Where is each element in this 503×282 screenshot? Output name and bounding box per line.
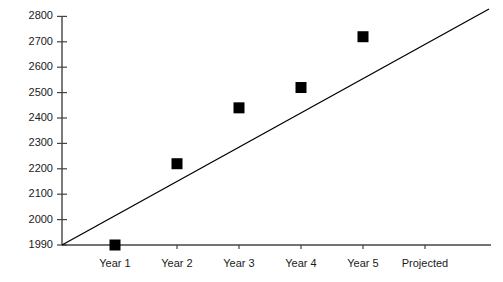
y-axis-tick-label: 2800 xyxy=(8,10,53,21)
y-axis-tick-label: 2400 xyxy=(8,112,53,123)
data-point-markers xyxy=(110,0,431,251)
trend-line-path xyxy=(62,9,489,245)
scatter-chart: 1990200021002200230024002500260027002800… xyxy=(0,0,503,282)
data-point-marker xyxy=(234,102,245,113)
axes xyxy=(62,16,491,245)
data-point-marker xyxy=(110,240,121,251)
y-axis-tick-label: 2600 xyxy=(8,61,53,72)
y-axis-tick-label: 2500 xyxy=(8,87,53,98)
data-point-marker xyxy=(296,82,307,93)
y-axis-tick-label: 2000 xyxy=(8,214,53,225)
trend-line xyxy=(62,9,489,245)
data-point-marker xyxy=(172,158,183,169)
y-axis-tick-label: 2200 xyxy=(8,163,53,174)
data-point-marker xyxy=(358,31,369,42)
y-axis-tick-label: 1990 xyxy=(8,239,53,250)
x-axis-category-label: Projected xyxy=(380,258,470,269)
chart-canvas xyxy=(0,0,503,282)
y-axis-tick-label: 2700 xyxy=(8,36,53,47)
y-axis-tick-label: 2300 xyxy=(8,137,53,148)
y-axis-tick-label: 2100 xyxy=(8,188,53,199)
